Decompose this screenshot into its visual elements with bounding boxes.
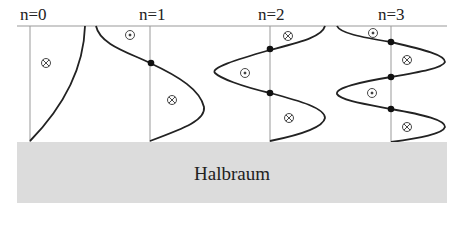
into-page-icon <box>403 123 412 132</box>
curve-n0 <box>30 26 85 141</box>
into-page-icon <box>284 32 293 41</box>
out-of-page-icon <box>369 29 378 38</box>
node-n3-2 <box>388 74 395 81</box>
out-of-page-icon <box>241 69 250 78</box>
node-n2-1 <box>267 46 274 53</box>
out-of-page-icon <box>126 31 135 40</box>
node-n3-3 <box>388 106 395 113</box>
out-of-page-icon <box>368 89 377 98</box>
node-n2-2 <box>267 90 274 97</box>
node-n1-1 <box>148 60 155 67</box>
into-page-icon <box>168 96 177 105</box>
into-page-icon <box>285 114 294 123</box>
halfspace-label: Halbraum <box>17 163 447 185</box>
into-page-icon <box>42 59 51 68</box>
node-n3-1 <box>388 39 395 46</box>
halfspace-region: Halbraum <box>17 142 447 203</box>
into-page-icon <box>403 56 412 65</box>
